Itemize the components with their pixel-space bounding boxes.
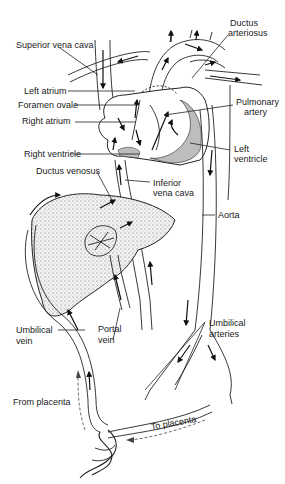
label-ductus-arteriosus-line1: Ductus bbox=[230, 18, 258, 28]
liver bbox=[32, 194, 175, 316]
label-superior-vena-cava: Superior vena cava bbox=[16, 40, 94, 50]
label-from-placenta: From placenta bbox=[13, 397, 71, 407]
label-umbilical-vein-line1: Umbilical bbox=[16, 325, 53, 335]
label-pulmonary-artery-line2: artery bbox=[244, 107, 267, 117]
label-left-ventricle-line2: ventricle bbox=[234, 154, 268, 164]
label-left-ventricle-line1: Left bbox=[234, 144, 249, 154]
fetal-circulation-diagram bbox=[0, 0, 285, 484]
label-inferior-vena-cava-line2: vena cava bbox=[153, 188, 194, 198]
label-foramen-ovale: Foramen ovale bbox=[18, 100, 78, 110]
heart bbox=[99, 86, 209, 165]
label-umbilical-arteries-line2: arteries bbox=[209, 329, 239, 339]
label-right-ventricle: Right ventricle bbox=[24, 149, 81, 159]
label-pulmonary-artery-line1: Pulmonary bbox=[236, 97, 279, 107]
label-inferior-vena-cava-line1: Inferior bbox=[153, 178, 181, 188]
label-portal-vein-line2: vein bbox=[98, 335, 115, 345]
label-umbilical-arteries-line1: Umbilical bbox=[209, 318, 246, 328]
label-ductus-venosus: Ductus venosus bbox=[36, 166, 100, 176]
label-left-atrium: Left atrium bbox=[24, 86, 67, 96]
label-umbilical-vein-line2: vein bbox=[16, 336, 33, 346]
label-right-atrium: Right atrium bbox=[22, 116, 71, 126]
ductus-arteriosus bbox=[190, 60, 262, 85]
label-portal-vein-line1: Portal bbox=[98, 324, 122, 334]
label-aorta: Aorta bbox=[218, 210, 240, 220]
label-ductus-arteriosus-line2: arteriosus bbox=[228, 28, 268, 38]
